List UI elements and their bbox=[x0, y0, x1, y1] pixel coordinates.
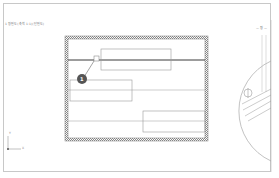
circular-detail bbox=[239, 20, 271, 172]
axis-x-label: X bbox=[22, 146, 24, 150]
plan-outline bbox=[65, 36, 208, 141]
axis-indicator bbox=[7, 136, 21, 150]
callout-number: 1 bbox=[80, 76, 83, 82]
axis-y-label: Y bbox=[9, 131, 11, 135]
technical-drawing bbox=[0, 0, 279, 178]
